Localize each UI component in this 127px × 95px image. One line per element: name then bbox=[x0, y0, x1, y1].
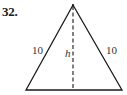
left-side-length-label: 10 bbox=[32, 44, 43, 56]
apex-point bbox=[72, 4, 74, 6]
height-label: h bbox=[65, 47, 71, 59]
right-side-length-label: 10 bbox=[106, 44, 117, 56]
